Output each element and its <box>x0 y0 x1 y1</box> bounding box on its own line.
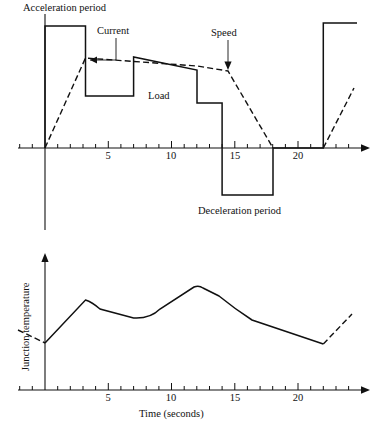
temperature-curve-tail <box>323 314 352 344</box>
figure-motor-current-temperature: Acceleration period Current Speed Load D… <box>0 0 373 429</box>
label-load: Load <box>148 91 170 102</box>
bottom-y-axis-label: Junction temperature <box>20 283 31 371</box>
label-current: Current <box>97 26 129 37</box>
bottom-chart-graphic <box>0 239 373 429</box>
current-leader <box>90 38 116 63</box>
label-speed: Speed <box>211 28 237 39</box>
top-x-ticks <box>20 141 349 148</box>
top-tick-label-20: 20 <box>288 151 308 162</box>
bottom-x-axis-label: Time (seconds) <box>139 409 204 420</box>
bottom-x-ticks <box>20 383 349 390</box>
junction-temperature-curve <box>45 286 323 344</box>
top-tick-label-5: 5 <box>98 151 118 162</box>
bottom-y-axis <box>41 253 48 390</box>
bottom-tick-label-10: 10 <box>161 393 181 404</box>
speed-leader <box>224 40 231 70</box>
bottom-tick-label-20: 20 <box>288 393 308 404</box>
top-tick-label-15: 15 <box>225 151 245 162</box>
label-acceleration-period: Acceleration period <box>23 3 106 14</box>
bottom-tick-label-15: 15 <box>225 393 245 404</box>
top-chart-graphic <box>0 0 373 230</box>
bottom-tick-label-5: 5 <box>98 393 118 404</box>
label-deceleration-period: Deceleration period <box>198 206 281 217</box>
top-tick-label-10: 10 <box>161 151 181 162</box>
current-curve <box>45 23 357 195</box>
